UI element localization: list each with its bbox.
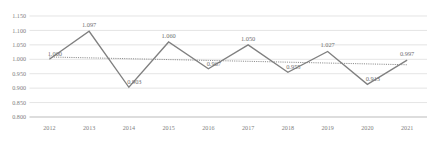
data-label: 1.050 xyxy=(241,35,255,42)
y-axis-tick-label: 0.950 xyxy=(12,71,26,77)
data-label: 1.060 xyxy=(161,32,175,39)
x-axis-tick-label: 2018 xyxy=(282,125,294,131)
data-label: 1.097 xyxy=(82,21,97,28)
y-axis-tick-label: 0.900 xyxy=(12,85,26,91)
data-label: 1.000 xyxy=(48,50,62,57)
x-axis-tick-label: 2020 xyxy=(361,125,373,131)
x-axis-tick-label: 2019 xyxy=(322,125,334,131)
data-label: 0.903 xyxy=(127,78,141,85)
data-label: 1.027 xyxy=(320,41,335,48)
trendline xyxy=(49,57,407,65)
data-label: 0.997 xyxy=(400,50,415,57)
x-axis-tick-labels: 2012201320142015201620172018201920202021 xyxy=(43,125,413,131)
x-axis-tick-label: 2016 xyxy=(202,125,214,131)
trendline-series xyxy=(49,57,407,65)
y-axis-tick-label: 1.100 xyxy=(12,28,26,34)
data-label: 0.955 xyxy=(286,63,300,70)
chart-canvas: 1.1501.1001.0501.0000.9500.9000.8500.800… xyxy=(0,0,436,148)
y-axis-tick-label: 1.150 xyxy=(12,13,26,19)
x-axis-tick-label: 2017 xyxy=(242,125,254,131)
y-axis-tick-label: 0.800 xyxy=(12,114,26,120)
x-axis-tick-label: 2013 xyxy=(83,125,95,131)
line-chart: 1.1501.1001.0501.0000.9500.9000.8500.800… xyxy=(0,0,436,148)
data-label: 0.913 xyxy=(366,75,380,82)
x-axis-tick-label: 2012 xyxy=(43,125,55,131)
x-axis-tick-label: 2021 xyxy=(401,125,413,131)
y-axis-tick-label: 1.000 xyxy=(12,56,26,62)
y-axis-tick-labels: 1.1501.1001.0501.0000.9500.9000.8500.800 xyxy=(12,13,26,120)
data-labels: 1.0001.0970.9031.0600.9671.0500.9551.027… xyxy=(48,21,415,85)
x-axis-tick-label: 2015 xyxy=(163,125,175,131)
y-axis-tick-label: 1.050 xyxy=(12,42,26,48)
y-axis-tick-label: 0.850 xyxy=(12,100,26,106)
data-label: 0.967 xyxy=(207,60,222,67)
x-axis-tick-label: 2014 xyxy=(123,125,135,131)
